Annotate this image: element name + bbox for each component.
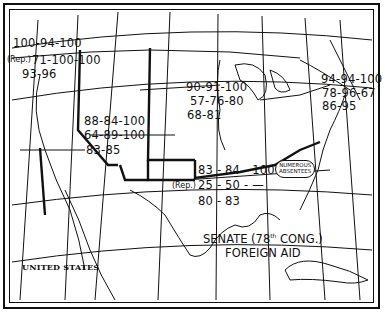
country-label: UNITED STATES bbox=[22, 263, 99, 271]
vote-pacific-northwest-line3: 93-96 bbox=[22, 69, 56, 81]
vote-mountain-west-line3: 83-85 bbox=[86, 145, 120, 157]
vote-northeast-line2: 78-96-67 bbox=[322, 88, 376, 100]
numerous-absentees-note: NUMEROUS ABSENTEES bbox=[275, 160, 315, 178]
vote-northeast-line3: 86-95 bbox=[322, 101, 356, 113]
map-title-line2: FOREIGN AID bbox=[203, 246, 323, 260]
vote-mountain-west-line2: 64-89-100 bbox=[84, 130, 145, 142]
vote-midwest-line3: 68-81 bbox=[187, 110, 221, 122]
vote-midwest-line1: 90-91-100 bbox=[186, 82, 247, 94]
vote-pacific-northwest-line2: 71-100-100 bbox=[32, 55, 101, 67]
rep-marker-south: (Rep.) bbox=[172, 182, 196, 190]
map-title-line1: SENATE (78th CONG.) bbox=[203, 232, 323, 246]
map-title: SENATE (78th CONG.) FOREIGN AID bbox=[203, 232, 323, 261]
vote-midwest-line2: 57-76-80 bbox=[190, 96, 244, 108]
vote-pacific-northwest-line1: 100-94-100 bbox=[13, 38, 82, 50]
rep-marker-pacific: (Rep.) bbox=[7, 56, 31, 64]
vote-south-line3: 80 - 83 bbox=[198, 196, 240, 208]
vote-south-line2: 25 - 50 - — bbox=[198, 180, 264, 192]
vote-northeast-line1: 94-94-100 bbox=[321, 74, 382, 86]
vote-mountain-west-line1: 88-84-100 bbox=[84, 116, 145, 128]
note-line2: ABSENTEES bbox=[279, 169, 311, 175]
vote-south-line1: 83 - 84 - 100 bbox=[198, 165, 275, 177]
